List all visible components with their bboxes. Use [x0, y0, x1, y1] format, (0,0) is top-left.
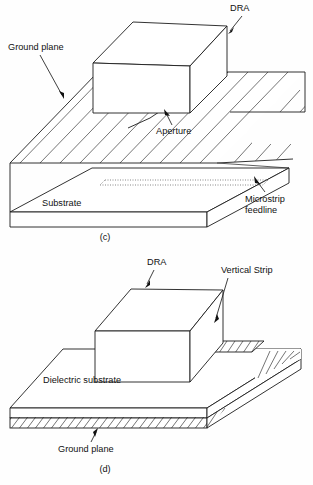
dra-front-face-d [95, 331, 190, 382]
label-ground-plane-c: Ground plane [8, 42, 64, 99]
ground-plane-label-c: Ground plane [8, 42, 64, 52]
microstrip-feedline-label-line1: Microstrip [245, 194, 285, 204]
figure-root: DRA Ground plane Aperture Microstrip fee… [0, 0, 313, 485]
substrate-front-face [10, 212, 207, 227]
ground-plane-edge-to-substrate-right [217, 163, 289, 168]
ground-plane-leader-c [40, 55, 62, 95]
dielectric-substrate-front-face [10, 408, 207, 418]
microstrip-feedline-label-line2: feedline [245, 205, 277, 215]
dra-feeding-configurations-figure: DRA Ground plane Aperture Microstrip fee… [0, 0, 313, 485]
panel-d-caption: (d) [99, 464, 110, 474]
substrate-label-c: Substrate [42, 198, 81, 208]
aperture-label-c: Aperture [156, 126, 191, 136]
dra-label-c: DRA [230, 3, 250, 13]
panel-c: DRA Ground plane Aperture Microstrip fee… [0, 3, 313, 242]
label-ground-plane-d: Ground plane [58, 428, 114, 454]
dra-leader-c [230, 16, 242, 31]
dra-arrowhead-c [228, 27, 234, 34]
label-dra-d: DRA [145, 257, 167, 288]
ground-plane-label-d: Ground plane [58, 444, 114, 454]
panel-c-caption: (c) [100, 232, 111, 242]
dielectric-substrate-label-d: Dielectric substrate [43, 375, 121, 385]
dra-front-face [93, 63, 190, 113]
dra-arrowhead-d [145, 280, 150, 288]
panel-d: DRA Vertical Strip Dielectric substrate … [2, 257, 301, 474]
label-dra-c: DRA [228, 3, 250, 34]
vertical-strip-label-d: Vertical Strip [221, 265, 273, 275]
dra-leader-d [147, 270, 154, 284]
dra-label-d: DRA [147, 257, 167, 267]
ground-plane-arrowhead-c [59, 91, 64, 99]
